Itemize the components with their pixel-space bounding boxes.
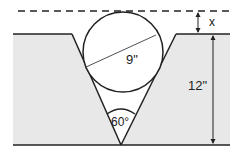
angle-arc — [107, 109, 135, 114]
x-arrow-up — [196, 12, 201, 17]
x-label: x — [209, 15, 215, 29]
diameter-label: 9" — [126, 52, 138, 67]
depth-label: 12" — [188, 78, 207, 93]
circle — [83, 12, 163, 92]
x-arrow-down — [196, 28, 201, 33]
angle-label: 60° — [111, 115, 129, 129]
v-groove-diagram: 9" 60° x 12" — [0, 0, 241, 156]
